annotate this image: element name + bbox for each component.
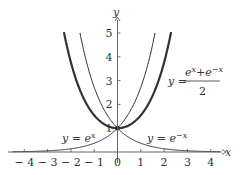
x-tick-label: − 3 (38, 156, 58, 169)
x-tick-label: 3 (184, 156, 191, 169)
x-tick-label: − 4 (14, 156, 34, 169)
x-tick-label: − 1 (84, 156, 104, 169)
x-tick-label: 4 (207, 156, 214, 169)
y-tick-label: 4 (106, 51, 113, 64)
y-tick-label: 3 (106, 75, 113, 88)
x-tick-label: 0 (114, 156, 121, 169)
axes (8, 17, 226, 163)
curves (13, 32, 220, 152)
y-axis-label: y (112, 6, 120, 19)
svg-text:ex+e−x: ex+e−x (185, 65, 223, 79)
y-tick-label: 2 (106, 98, 113, 111)
y-tick-label: 1 (106, 122, 113, 135)
ticks: − 4− 3− 2− 10123412345 (14, 27, 214, 169)
label-emx: y = e−x (146, 131, 188, 145)
x-tick-label: − 2 (61, 156, 81, 169)
label-cosh: y = ex+e−x 2 (167, 65, 223, 98)
x-tick-label: 1 (137, 156, 144, 169)
svg-text:2: 2 (199, 85, 206, 98)
x-axis-label: x (225, 146, 232, 159)
x-tick-label: 2 (161, 156, 168, 169)
y-tick-label: 5 (106, 27, 113, 40)
label-ex: y = ex (61, 131, 96, 145)
svg-text:y =: y = (167, 75, 187, 88)
plot-svg: − 4− 3− 2− 10123412345 x y y = ex y = e−… (0, 0, 243, 175)
chart: − 4− 3− 2− 10123412345 x y y = ex y = e−… (0, 0, 243, 175)
